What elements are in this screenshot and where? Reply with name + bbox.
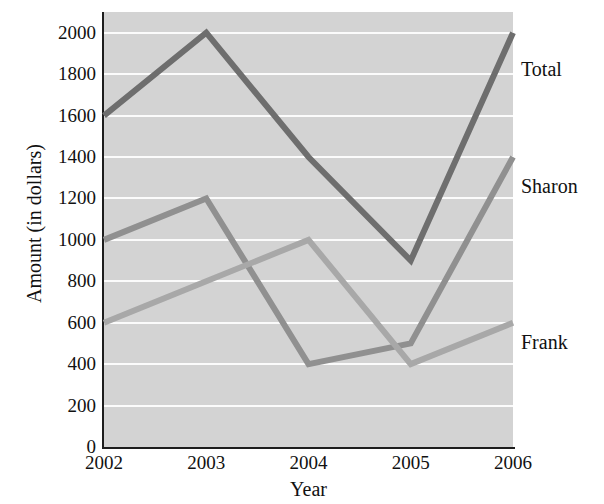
x-axis-title: Year xyxy=(104,478,513,501)
x-tick-label: 2002 xyxy=(64,452,144,474)
gridline xyxy=(104,197,513,199)
y-tick-label: 600 xyxy=(4,313,96,332)
y-axis-title: Amount (in dollars) xyxy=(23,94,46,354)
y-tick-label: 800 xyxy=(4,271,96,290)
y-tick-label: 1800 xyxy=(4,64,96,83)
y-tick-label: 400 xyxy=(4,354,96,373)
x-tick-label: 2006 xyxy=(473,452,553,474)
gridline xyxy=(104,239,513,241)
gridline xyxy=(104,363,513,365)
y-axis-line xyxy=(102,12,104,449)
x-tick-label: 2005 xyxy=(371,452,451,474)
y-tick-label: 1400 xyxy=(4,147,96,166)
gridline xyxy=(104,32,513,34)
series-label-total: Total xyxy=(521,58,562,81)
line-chart: 0200400600800100012001400160018002000 20… xyxy=(0,0,604,504)
plot-area xyxy=(104,12,513,447)
gridline xyxy=(104,115,513,117)
y-tick-label: 200 xyxy=(4,396,96,415)
series-label-frank: Frank xyxy=(521,331,568,354)
gridline xyxy=(104,156,513,158)
gridline xyxy=(104,280,513,282)
y-tick-label: 2000 xyxy=(4,23,96,42)
gridline xyxy=(104,73,513,75)
x-axis-line xyxy=(102,447,515,449)
gridline xyxy=(104,405,513,407)
y-tick-label: 1200 xyxy=(4,188,96,207)
series-label-sharon: Sharon xyxy=(521,175,578,198)
y-tick-label: 1600 xyxy=(4,106,96,125)
x-tick-label: 2004 xyxy=(269,452,349,474)
y-tick-label: 1000 xyxy=(4,230,96,249)
x-tick-label: 2003 xyxy=(166,452,246,474)
gridline xyxy=(104,322,513,324)
